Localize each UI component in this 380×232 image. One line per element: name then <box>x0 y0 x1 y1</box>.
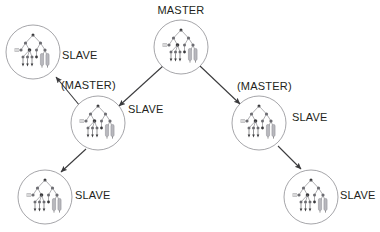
label-slave-mid-right: SLAVE <box>292 111 328 123</box>
label-master-paren-left: (MASTER) <box>61 79 116 91</box>
node-slave-top-left[interactable] <box>6 25 60 79</box>
node-slave-bottom-right[interactable] <box>284 170 338 224</box>
diagram-canvas: MASTER SLAVE (MASTER) SLAVE (MASTER) SLA… <box>0 0 380 232</box>
node-root-master[interactable] <box>154 20 208 74</box>
node-circle[interactable] <box>18 170 72 224</box>
label-slave-bottom-right: SLAVE <box>340 189 376 201</box>
node-circle[interactable] <box>154 20 208 74</box>
label-master-root: MASTER <box>157 4 204 16</box>
edge-midright-to-botright <box>278 146 301 169</box>
node-circle[interactable] <box>6 25 60 79</box>
diagram-svg: MASTER SLAVE (MASTER) SLAVE (MASTER) SLA… <box>0 0 380 232</box>
edge-root-to-midright <box>200 66 240 104</box>
label-slave-mid-left: SLAVE <box>128 103 164 115</box>
node-circle[interactable] <box>232 96 286 150</box>
edge-midleft-to-botleft <box>61 149 86 172</box>
node-mid-left[interactable] <box>71 96 125 150</box>
node-circle[interactable] <box>71 96 125 150</box>
node-circle[interactable] <box>284 170 338 224</box>
node-mid-right[interactable] <box>232 96 286 150</box>
label-slave-bottom-left: SLAVE <box>75 189 111 201</box>
label-slave-top-left: SLAVE <box>62 49 98 61</box>
label-master-paren-right: (MASTER) <box>237 80 292 92</box>
node-layer <box>6 20 338 224</box>
edge-root-to-midleft <box>119 66 163 106</box>
node-slave-bottom-left[interactable] <box>18 170 72 224</box>
